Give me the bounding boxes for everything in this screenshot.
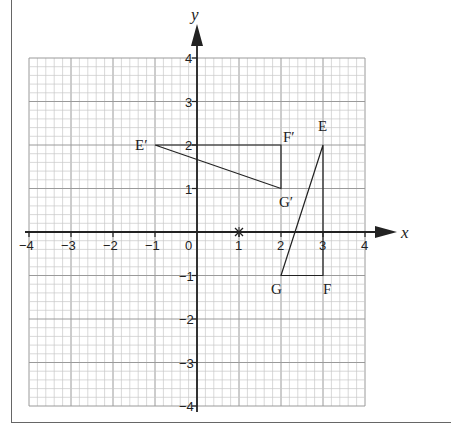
x-tick-label: 2 bbox=[277, 238, 284, 253]
y-tick-label: 1 bbox=[185, 182, 192, 197]
x-tick-label: 1 bbox=[235, 238, 242, 253]
x-tick-label: 4 bbox=[361, 238, 368, 253]
triangle-efg bbox=[281, 145, 323, 276]
y-tick-label: −3 bbox=[179, 356, 194, 371]
x-tick-label: −4 bbox=[19, 238, 34, 253]
x-tick-label: −2 bbox=[103, 238, 118, 253]
vertex-label: E′ bbox=[135, 137, 147, 153]
y-tick-label: −2 bbox=[179, 312, 194, 327]
y-tick-label: −4 bbox=[179, 399, 194, 414]
x-tick-label: −3 bbox=[61, 238, 76, 253]
vertex-label: F bbox=[323, 281, 331, 297]
vertex-label: G bbox=[271, 281, 282, 297]
vertex-label: F′ bbox=[283, 129, 295, 145]
vertex-label: E bbox=[318, 118, 327, 134]
x-axis-arrow-icon bbox=[375, 226, 397, 238]
y-axis-label: y bbox=[189, 5, 199, 24]
x-tick-label: 0 bbox=[185, 238, 192, 253]
x-tick-label: −1 bbox=[145, 238, 160, 253]
x-axis-label: x bbox=[400, 223, 409, 242]
y-tick-label: 4 bbox=[185, 51, 192, 66]
triangle-efg-prime bbox=[155, 145, 281, 189]
vertex-label: G′ bbox=[279, 194, 293, 210]
y-tick-label: −1 bbox=[179, 269, 194, 284]
y-axis-arrow-icon bbox=[191, 24, 203, 46]
y-tick-label: 3 bbox=[185, 95, 192, 110]
